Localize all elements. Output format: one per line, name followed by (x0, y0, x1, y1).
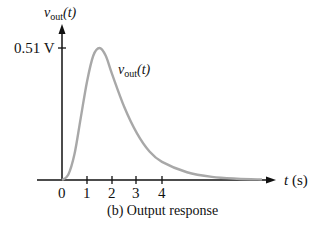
y-axis-arrow-icon (59, 24, 66, 34)
chart-caption: (b) Output response (107, 204, 218, 218)
curve-label: vout(t) (118, 63, 150, 79)
y-tick-label: 0.51 V (14, 41, 55, 56)
x-tick-label-1: 1 (83, 186, 91, 201)
y-axis-label: vout(t) (44, 6, 76, 22)
x-tick-label-4: 4 (158, 186, 166, 201)
output-response-curve (62, 48, 262, 180)
x-tick-label-2: 2 (108, 186, 116, 201)
x-tick-label-3: 3 (132, 186, 140, 201)
x-axis-label: t (s) (284, 173, 308, 188)
x-tick-label-0: 0 (58, 186, 66, 201)
x-axis-arrow-icon (266, 177, 276, 184)
